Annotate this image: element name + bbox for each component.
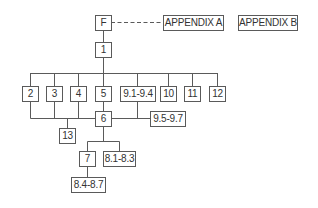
node-12: 12 (209, 86, 226, 102)
node-8-1-8-3: 8.1-8.3 (103, 151, 136, 167)
node-f: F (95, 15, 112, 31)
node-9-1-9-4: 9.1-9.4 (120, 86, 156, 102)
node-5: 5 (95, 86, 112, 102)
node-7: 7 (79, 151, 96, 167)
node-8-4-8-7: 8.4-8.7 (71, 177, 106, 193)
node-appendix-b: APPENDIX B (238, 15, 298, 31)
node-appendix-a: APPENDIX A (163, 15, 224, 31)
node-2: 2 (22, 86, 39, 102)
connector-lines (0, 0, 318, 208)
node-10: 10 (160, 86, 177, 102)
node-11: 11 (184, 86, 201, 102)
node-13: 13 (59, 128, 76, 144)
node-3: 3 (46, 86, 63, 102)
flow-diagram: F APPENDIX A APPENDIX B 1 2 3 4 5 9.1-9.… (0, 0, 318, 208)
node-4: 4 (70, 86, 87, 102)
node-1: 1 (95, 42, 112, 58)
node-9-5-9-7: 9.5-9.7 (150, 111, 186, 127)
node-6: 6 (95, 111, 112, 127)
